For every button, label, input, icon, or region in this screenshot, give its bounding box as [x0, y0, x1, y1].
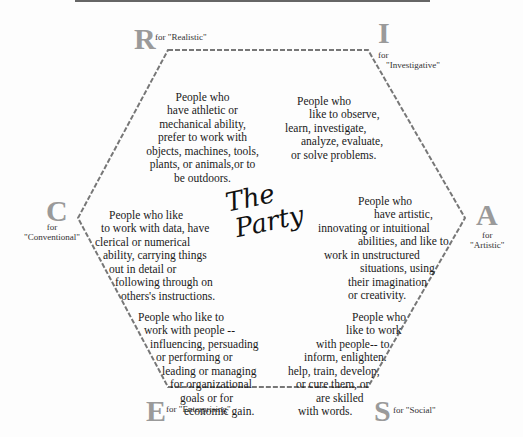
for-realistic: for "Realistic" [155, 32, 207, 42]
blurb-social: People wholike to workwith people-- toin… [288, 284, 406, 432]
letter-i: I [378, 18, 390, 48]
blurb-realistic: People whohave athletic ormechanical abi… [140, 64, 265, 199]
for-conventional: for"Conventional" [24, 222, 80, 243]
for-artistic: for"Artistic" [470, 230, 504, 251]
blurb-investigative: People wholike to observe,learn, investi… [285, 68, 383, 176]
letter-r: R [134, 24, 156, 54]
for-investigative: for"Investigative" [378, 50, 440, 71]
blurb-enterprising: People who like towork with people --inf… [138, 284, 259, 432]
letter-a: A [476, 200, 498, 230]
